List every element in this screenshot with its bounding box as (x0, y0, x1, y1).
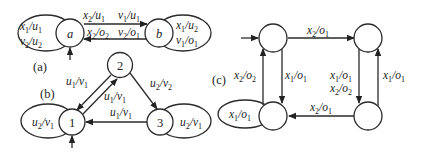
label-top-right-to-bottom-right-2: x2/o2 (329, 82, 352, 97)
panel-b: 2 1 3 u2/v1 u1/v1 u1/v1 u2/v2 u1/v1 u2/v… (21, 53, 211, 149)
label-bottom-right-to-bottom-left: x2/o1 (309, 101, 332, 116)
label-1-loop: u2/v1 (32, 116, 54, 131)
state-b-label: b (156, 27, 162, 41)
state-1-label: 1 (69, 116, 75, 130)
state-top-right (354, 24, 382, 52)
state-bottom-right (354, 102, 382, 130)
state-a-label: a (67, 27, 73, 41)
label-1-to-2: u1/v1 (104, 90, 126, 105)
state-machine-figure: a b x1/u1 v2/u2 x2/u1 v1/u1 x2/o2 v2/o1 … (0, 0, 424, 154)
panel-c-tag: (c) (212, 73, 226, 87)
label-a-loop-2: v2/u2 (20, 35, 42, 50)
label-b-to-a-1: x2/o2 (86, 26, 109, 41)
label-top-left-to-bottom-left: x1/o1 (284, 69, 307, 84)
label-a-to-b-1: x2/u1 (82, 9, 105, 24)
state-2-label: 2 (117, 59, 123, 73)
panel-b-tag: (b) (40, 87, 55, 101)
label-b-to-a-2: v2/o1 (118, 26, 140, 41)
label-a-loop-1: x1/u1 (19, 20, 42, 35)
label-3-loop: u2/v1 (180, 116, 202, 131)
label-bottom-left-loop: x1/o1 (228, 108, 251, 123)
state-3-label: 3 (157, 116, 163, 130)
label-a-to-b-2: v1/u1 (118, 9, 140, 24)
label-2-to-3: u2/v2 (150, 77, 172, 92)
label-b-loop-2: v1/o1 (176, 34, 198, 49)
label-b-loop-1: x1/u2 (175, 19, 198, 34)
label-bottom-left-to-top-left: x2/o2 (233, 69, 256, 84)
label-2-to-1: u1/v1 (66, 75, 88, 90)
label-top-left-to-top-right: x2/o1 (306, 24, 329, 39)
label-3-to-1: u1/v1 (110, 106, 132, 121)
panel-a-tag: (a) (33, 60, 47, 74)
state-top-left (259, 24, 287, 52)
label-bottom-right-to-top-right: x1/o1 (382, 69, 405, 84)
panel-c: x2/o1 x1/o1 x2/o2 x1/o1 x2/o1 x1/o1 x2/o… (212, 24, 405, 130)
state-bottom-left (259, 102, 287, 130)
